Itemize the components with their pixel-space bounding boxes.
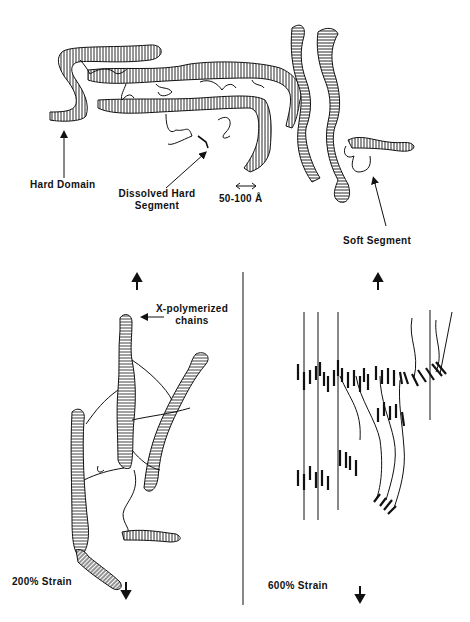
soft-segment-chain-5 bbox=[218, 117, 230, 138]
hard-domain-lower-band bbox=[98, 96, 271, 172]
extended-chains-wiggly bbox=[340, 376, 404, 508]
down-arrow-right bbox=[356, 586, 364, 602]
strain-200-label: 200% Strain bbox=[12, 576, 72, 588]
soft-segment-chain-3 bbox=[156, 84, 172, 96]
x-polymerized-chain-right bbox=[144, 353, 208, 491]
x-polymerized-chain-left bbox=[71, 409, 88, 556]
dissolved-label-line2: Segment bbox=[112, 200, 202, 212]
x-polymerized-chain-bottom-horizontal bbox=[122, 530, 180, 542]
diagram-canvas bbox=[0, 0, 470, 622]
x-polymerized-chains-label: X-polymerized chains bbox=[152, 303, 232, 327]
x-polymerized-chain-bottom-bend bbox=[76, 549, 121, 589]
dissolved-arrow bbox=[166, 154, 204, 188]
hard-domain-vertical-band-2 bbox=[317, 28, 349, 202]
dissolved-label-line1: Dissolved Hard bbox=[112, 188, 202, 200]
soft-segment-chain-8 bbox=[344, 146, 370, 172]
strain-200-panel bbox=[71, 315, 208, 590]
hard-domain-label: Hard Domain bbox=[30, 179, 96, 191]
up-arrow-right bbox=[374, 274, 382, 290]
connecting-chains bbox=[84, 360, 190, 532]
soft-segment-chain-2 bbox=[121, 84, 134, 100]
x-poly-line2: chains bbox=[152, 315, 232, 327]
strain-600-panel bbox=[298, 310, 452, 520]
strain-600-label: 600% Strain bbox=[268, 580, 328, 592]
aligned-hard-segments bbox=[298, 360, 446, 392]
soft-segment-chain-4 bbox=[166, 114, 192, 144]
dissolved-hard-segment bbox=[198, 136, 208, 148]
up-arrow-left bbox=[133, 274, 141, 290]
soft-segment-chain-6 bbox=[200, 81, 236, 90]
x-polymerized-chain-center bbox=[117, 315, 135, 469]
x-poly-line1: X-polymerized bbox=[152, 303, 232, 315]
soft-segment-chain-7 bbox=[252, 80, 264, 88]
dissolved-hard-segment-label: Dissolved Hard Segment bbox=[112, 188, 202, 212]
soft-segment-label: Soft Segment bbox=[343, 235, 411, 247]
hard-domain-right-horizontal bbox=[348, 137, 414, 151]
soft-segment-arrow bbox=[374, 180, 386, 226]
scale-label: 50-100 Å bbox=[219, 193, 263, 205]
down-arrow-left bbox=[122, 582, 130, 598]
